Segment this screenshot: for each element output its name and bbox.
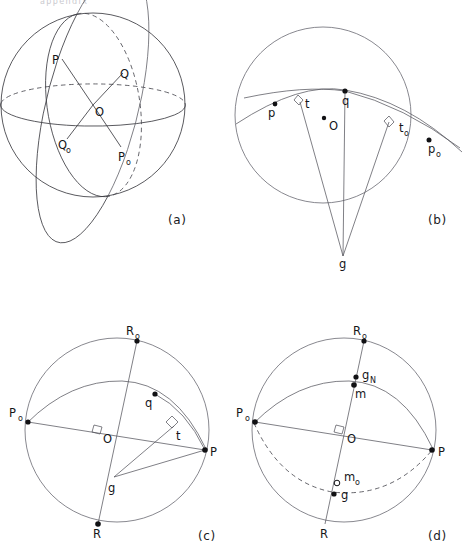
panel-a: P Q O Q o P o (a)	[1, 0, 187, 243]
panel-d-label-O: O	[347, 432, 356, 446]
panel-a-label-Po-subscript: o	[126, 158, 131, 167]
panel-b-label-po: p	[428, 142, 435, 156]
panel-a-caption: (a)	[168, 213, 187, 227]
panel-a-radius-op	[62, 59, 93, 105]
panel-b-label-to-subscript: o	[404, 129, 409, 138]
panel-d-label-Ro-subscript: o	[362, 332, 367, 341]
panel-d-label-mo: m	[344, 470, 355, 484]
panel-c-right-angle-mark-t	[166, 416, 178, 428]
panel-a-equator-back	[1, 84, 185, 107]
panel-c-label-Ro: R	[126, 324, 134, 338]
panel-c-point-Po	[25, 419, 30, 424]
panel-a-label-Po: P	[118, 150, 125, 164]
panel-c-label-t: t	[176, 429, 181, 443]
panel-b-label-to-group: t o	[399, 121, 409, 138]
panel-c-label-R: R	[93, 527, 101, 541]
panel-a-label-Qo-subscript: o	[66, 146, 71, 155]
panel-a-label-Q: Q	[120, 67, 129, 81]
panel-a-radius-oq	[93, 73, 123, 105]
panel-b-caption: (b)	[428, 213, 447, 227]
panel-d-point-gN	[353, 374, 358, 379]
panel-c-label-P: P	[210, 445, 217, 459]
panel-c-label-q: q	[145, 396, 152, 410]
panel-d-label-Po-subscript: o	[245, 414, 250, 423]
panel-c: R o P o q t O P g R (c)	[9, 324, 217, 543]
panel-b-sphere-outline	[235, 27, 411, 203]
panel-b-point-q	[342, 88, 347, 93]
panel-c-caption: (c)	[198, 529, 216, 543]
panel-d-right-angle-mark-O	[334, 425, 344, 434]
panel-a-radius-oqo	[67, 105, 93, 139]
panel-d-label-mo-group: m o	[344, 470, 360, 487]
panel-b-label-O: O	[329, 119, 338, 133]
panel-d-label-g: g	[341, 488, 348, 502]
panel-c-label-g: g	[108, 481, 115, 495]
panel-b-label-t: t	[305, 97, 310, 111]
panel-a-label-Qo-group: Q o	[58, 138, 71, 155]
panel-c-sphere-outline	[25, 338, 209, 522]
panel-b-point-O	[322, 116, 326, 120]
panel-d-label-mo-subscript: o	[355, 478, 360, 487]
panel-c-label-Po-subscript: o	[18, 414, 23, 423]
panel-d-point-P	[429, 447, 435, 453]
panel-d-label-gN-subscript: N	[370, 376, 376, 385]
panel-a-great-circle-qp-back	[77, 13, 141, 196]
panel-d-label-Ro: R	[353, 324, 361, 338]
panel-a-label-Po-group: P o	[118, 150, 131, 167]
panel-d-label-R: R	[320, 527, 328, 541]
panel-c-point-q	[152, 391, 157, 396]
panel-d-label-gN-group: g N	[362, 368, 376, 385]
panel-d-point-mo	[334, 480, 340, 486]
panel-c-point-R	[95, 521, 101, 527]
spherical-geometry-figure: P Q O Q o P o (a) p t q O	[0, 0, 469, 560]
panel-b-right-angle-mark-to	[384, 116, 394, 127]
panel-a-label-P: P	[52, 53, 59, 67]
panel-d-caption: (d)	[428, 529, 447, 543]
panel-c-label-Po-group: P o	[9, 406, 23, 423]
panel-b-label-g: g	[339, 257, 346, 271]
panel-c-line-g-to-p	[114, 450, 205, 477]
panel-d-point-Po	[252, 419, 258, 425]
panel-b-label-q: q	[342, 94, 349, 108]
panel-c-label-O: O	[103, 432, 112, 446]
panel-d-label-P: P	[438, 445, 445, 459]
panel-b: p t q O t o p o g (b)	[235, 27, 462, 271]
panel-d-label-gN: g	[362, 368, 369, 382]
panel-d: R o g N m P o O P m o g R (d)	[236, 324, 447, 543]
panel-b-label-po-subscript: o	[436, 150, 441, 159]
panel-b-label-po-group: p o	[428, 142, 441, 159]
panel-d-label-m: m	[355, 387, 366, 401]
panel-b-line-to-g	[343, 122, 389, 256]
panel-b-right-angle-mark-t	[294, 95, 303, 105]
panel-b-line-q-to-g	[343, 91, 345, 256]
panel-a-great-circle-pq-front	[36, 14, 108, 243]
panel-a-label-O: O	[95, 105, 104, 119]
panel-d-point-g	[331, 491, 336, 496]
panel-b-label-p: p	[268, 106, 275, 120]
panel-c-label-Ro-subscript: o	[135, 332, 140, 341]
panel-a-equator-front	[1, 103, 185, 126]
panel-c-point-P	[202, 447, 208, 453]
panel-c-line-g-to-t	[114, 426, 174, 477]
panel-c-label-Po: P	[9, 406, 16, 420]
panel-d-label-Po: P	[236, 406, 243, 420]
panel-d-label-Po-group: P o	[236, 406, 250, 423]
